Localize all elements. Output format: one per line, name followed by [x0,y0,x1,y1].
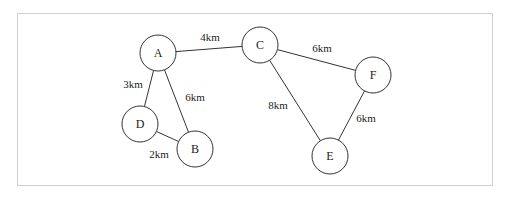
edge-weight-label: 3km [123,78,143,90]
edge-weight-label: 2km [149,148,169,160]
node-label: E [326,149,333,163]
node-F: F [355,57,391,93]
node-label: B [191,142,199,156]
node-label: C [256,38,264,52]
edge-F-E: 6km [338,91,376,140]
node-E: E [312,138,348,174]
edge-weight-label: 6km [356,112,376,124]
edge-line [144,70,153,106]
edge-weight-label: 6km [185,91,205,103]
node-label: F [370,68,377,82]
node-D: D [122,106,158,142]
edge-A-D: 3km [123,70,153,106]
edge-C-F: 6km [277,42,355,70]
edge-line [156,131,178,141]
node-A: A [140,35,176,71]
node-label: A [154,46,163,60]
edge-weight-label: 8km [268,99,288,111]
edge-A-B: 6km [164,70,205,132]
edge-A-C: 4km [176,31,242,52]
edge-weight-label: 6km [312,42,332,54]
node-C: C [242,27,278,63]
node-label: D [136,117,145,131]
graph-canvas: 4km3km6km2km6km8km6km ABCDEF [0,0,510,199]
edge-line [176,46,242,51]
edge-weight-label: 4km [200,31,220,43]
edge-C-E: 8km [268,60,320,141]
node-B: B [177,131,213,167]
